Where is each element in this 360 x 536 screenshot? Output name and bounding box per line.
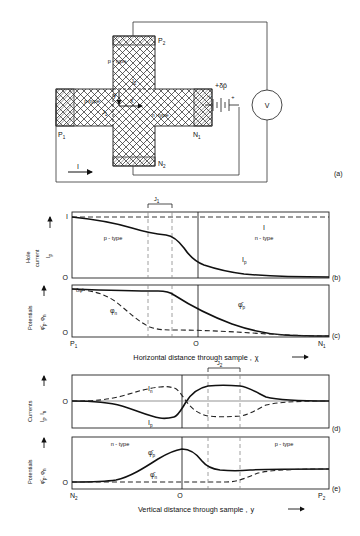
panel-d-curve-ip-label: Ip	[148, 419, 153, 428]
label-ntype-center: n -type	[151, 112, 168, 118]
panel-d-curve-in-label: In	[148, 385, 153, 394]
panel-d-ylabel-sym: Ip, In	[39, 410, 47, 422]
voltmeter-label: V	[265, 102, 270, 109]
panel-d-origin-label: O	[63, 398, 69, 405]
panel-d-yaxis-title: Currents Ip, In	[27, 376, 47, 422]
panel-id-c: (c)	[332, 332, 340, 340]
panel-b-hole-current: J1 I O p - type n - type I Ip Hole curre…	[25, 196, 341, 282]
label-n1: N1	[193, 131, 201, 140]
panel-d-junction-markers	[208, 375, 240, 428]
contact-n1	[194, 89, 212, 126]
panel-e-origin-label: O	[63, 479, 69, 486]
panel-c-origin-label: O	[63, 329, 69, 336]
panel-e-potentials-vertical: O n - type p - type φ̄p φ̄n N2 O P2 Pote…	[27, 437, 341, 514]
panel-e-region-right: p - type	[275, 441, 294, 447]
panel-b-junction-markers	[148, 212, 172, 278]
panel-c-potentials-horizontal: O δφ̄ φn φ̄p P1 O N1 Potentials φ̄p, φn …	[27, 285, 340, 362]
panel-b-j1-bracket	[148, 204, 172, 208]
svg-text:Vertical distance through samp: Vertical distance through sample ,y	[138, 505, 255, 514]
panel-b-ylabel-line2: current	[34, 249, 40, 267]
panel-e-xleft-label: N2	[70, 492, 78, 501]
panel-b-curve-label: Ip	[242, 256, 247, 265]
panel-b-region-right: n - type	[255, 235, 274, 241]
panel-a-device-diagram: V − + +δp̄	[56, 22, 343, 182]
panel-c-xright-label: N1	[318, 340, 326, 349]
battery-bias-label: +δp̄	[215, 82, 227, 90]
panel-id-e: (e)	[332, 485, 341, 493]
panel-c-xaxis-title: Horizontal distance through sample ,χ	[133, 353, 308, 362]
panel-d-currents-vertical: J2 O In Ip Currents Ip, In (d)	[27, 360, 341, 433]
panel-b-region-left: p - type	[104, 235, 123, 241]
panel-id-d: (d)	[332, 425, 341, 433]
label-ptype-left: p-type	[84, 98, 100, 104]
panel-e-curve-phin-label: φ̄n	[150, 471, 158, 480]
panel-b-j1-label: J1	[154, 196, 160, 204]
panel-d-j2-bracket	[208, 368, 240, 372]
panel-b-curve-ip	[72, 217, 329, 277]
panel-b-yaxis-title: Hole current Ip	[25, 217, 53, 267]
panel-c-ylabel: Potentials	[27, 305, 33, 330]
panel-e-region-left: n - type	[111, 441, 130, 447]
panel-b-ytop-label: I	[66, 213, 68, 220]
contact-p1	[56, 89, 74, 126]
panel-e-ylabel: Potentials	[27, 459, 33, 484]
panel-d-ylabel: Currents	[27, 400, 33, 422]
sample-cross-body	[56, 36, 212, 166]
contact-n2	[113, 157, 155, 166]
panel-b-ybottom-label: O	[63, 274, 69, 281]
panel-b-dashed-level-label: I	[263, 224, 265, 231]
panel-c-xleft-label: P1	[70, 340, 78, 349]
contact-p2	[113, 36, 155, 45]
panel-b-ylabel-line1: Hole	[25, 251, 31, 263]
svg-text:Horizontal distance through sa: Horizontal distance through sample ,χ	[133, 353, 258, 362]
axis-label-y: y	[113, 91, 117, 99]
label-p2: P2	[158, 37, 166, 46]
panel-c-curve-phin-label: φn	[110, 307, 118, 316]
label-ptype-top: p - type	[108, 58, 127, 64]
axis-label-x: x	[130, 97, 134, 104]
current-arrow: I	[68, 163, 92, 172]
panel-e-curve-phip-label: φ̄p	[148, 449, 156, 458]
panel-e-xaxis-title: Vertical distance through sample ,y	[138, 505, 304, 514]
panel-b-ylabel-sym: Ip	[45, 253, 53, 258]
panel-e-curve-phip	[72, 449, 329, 482]
panel-d-curve-in	[72, 387, 329, 417]
label-n2: N2	[158, 160, 166, 169]
battery-plus-label: +	[231, 94, 234, 100]
panel-c-xmid-label: O	[193, 340, 199, 347]
panel-e-xmid-label: O	[177, 492, 183, 499]
current-label: I	[77, 163, 79, 170]
panel-e-yaxis-title: Potentials φ̄p, φn	[27, 438, 47, 484]
panel-c-ytop-label: δφ̄	[76, 287, 84, 293]
panel-id-b: (b)	[332, 274, 341, 282]
figure-root: V − + +δp̄	[0, 0, 360, 536]
panel-c-curve-phip-label: φ̄p	[238, 301, 246, 310]
panel-c-yaxis-title: Potentials φ̄p, φn	[27, 286, 47, 330]
label-p1: P1	[58, 131, 66, 140]
panel-e-xright-label: P2	[318, 492, 326, 501]
voltmeter: V	[252, 90, 282, 120]
panel-id-a: (a)	[334, 170, 343, 178]
panel-c-ylabel-sym: φ̄p, φn	[39, 314, 47, 330]
panel-e-ylabel-sym: φ̄p, φn	[39, 468, 47, 484]
